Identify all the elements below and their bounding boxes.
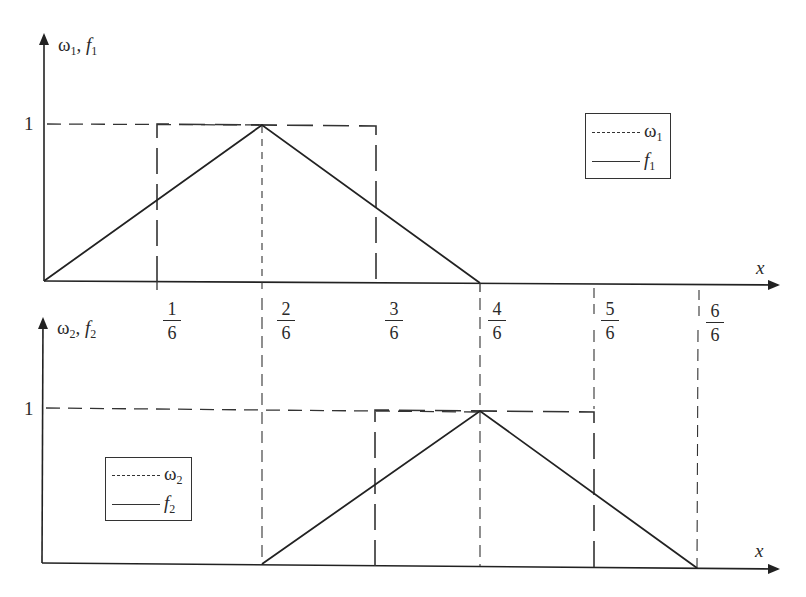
top-y-axis-label: ω1, f1 [58, 35, 97, 57]
top-x-axis [44, 281, 778, 285]
bottom-panel [42, 319, 778, 569]
bottom-x-axis-label: x [755, 541, 763, 560]
fraction-guides [262, 288, 699, 568]
x-tick-3-6: 36 [385, 300, 403, 342]
solid-line-swatch-icon [112, 504, 160, 505]
top-omega1-series [157, 124, 376, 283]
bottom-y-tick-1: 1 [24, 399, 34, 418]
dashed-line-swatch-icon [112, 475, 160, 476]
top-y-tick-1: 1 [24, 114, 34, 133]
legend-item-f1: f1 [592, 150, 655, 172]
x-tick-5-6: 56 [601, 300, 619, 342]
top-legend: ω1 f1 [585, 113, 671, 179]
x-tick-2-6: 26 [277, 300, 295, 342]
top-x-axis-label: x [756, 258, 764, 277]
legend-item-f2: f2 [112, 493, 175, 515]
bottom-x-axis [42, 563, 778, 569]
x-tick-4-6: 46 [488, 300, 506, 342]
solid-line-swatch-icon [592, 161, 640, 162]
legend-item-omega2: ω2 [112, 464, 183, 486]
bottom-omega2-series [375, 410, 594, 568]
bottom-y-axis [42, 319, 43, 563]
legend-item-omega1: ω1 [592, 121, 663, 143]
bottom-legend: ω2 f2 [105, 457, 192, 521]
x-tick-1-6: 16 [163, 300, 181, 342]
bottom-y-axis-label: ω2, f2 [57, 318, 96, 340]
x-tick-6-6: 66 [706, 302, 724, 344]
dashed-line-swatch-icon [592, 132, 640, 133]
